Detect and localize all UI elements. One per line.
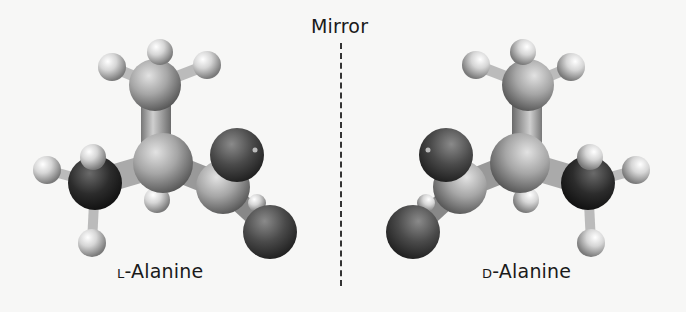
d-prefix: d [482, 266, 492, 281]
d-alanine-model [386, 39, 650, 259]
l-alanine-model [33, 39, 297, 259]
d-alanine-label: d-Alanine [482, 260, 571, 282]
d-name: -Alanine [492, 260, 571, 282]
enantiomer-figure [0, 0, 686, 312]
molecule-models [0, 0, 686, 312]
mirror-label: Mirror [311, 15, 368, 37]
mirror-plane-line [340, 43, 342, 286]
l-name: -Alanine [124, 260, 203, 282]
l-alanine-label: l-Alanine [117, 260, 203, 282]
